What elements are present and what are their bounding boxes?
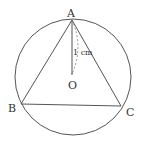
label-b: B — [8, 102, 16, 115]
label-c: C — [126, 106, 134, 119]
label-o: O — [68, 79, 77, 92]
label-a: A — [66, 7, 76, 20]
side-ca — [72, 20, 121, 106]
center-point — [71, 73, 73, 75]
side-ab — [21, 20, 72, 104]
geometry-diagram: A B C O 1 cm — [0, 0, 141, 142]
diagram-svg: A B C O 1 cm — [0, 0, 141, 142]
side-bc — [21, 104, 121, 106]
circumcircle — [15, 19, 131, 135]
measurement-label: 1 cm — [73, 48, 93, 57]
